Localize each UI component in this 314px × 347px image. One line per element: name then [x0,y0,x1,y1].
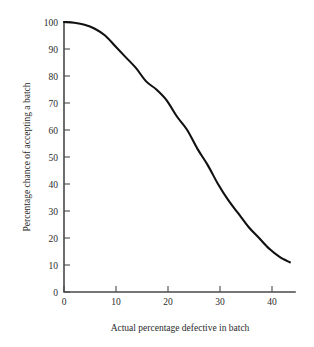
chart-figure: 0 10 20 30 40 50 60 70 80 90 100 0 10 20… [0,0,314,347]
chart-background [0,0,314,347]
x-axis-title: Actual percentage defective in batch [111,323,250,333]
operating-characteristic-chart: 0 10 20 30 40 50 60 70 80 90 100 0 10 20… [0,0,314,347]
y-tick-label: 20 [49,234,59,244]
y-tick-label: 90 [49,45,59,55]
x-tick-label: 10 [111,297,121,307]
y-tick-label: 100 [44,18,59,28]
y-tick-label: 0 [53,288,58,298]
x-tick-label: 30 [215,297,225,307]
y-tick-label: 70 [49,99,59,109]
y-tick-label: 50 [49,153,59,163]
y-tick-label: 30 [49,207,59,217]
y-tick-label: 60 [49,126,59,136]
y-tick-label: 80 [49,72,59,82]
y-tick-label: 40 [49,180,59,190]
x-tick-label: 40 [267,297,277,307]
y-tick-label: 10 [49,261,59,271]
x-tick-label: 0 [62,297,67,307]
y-axis-title: Percentage chance of accepting a batch [22,82,32,231]
x-tick-label: 20 [163,297,173,307]
